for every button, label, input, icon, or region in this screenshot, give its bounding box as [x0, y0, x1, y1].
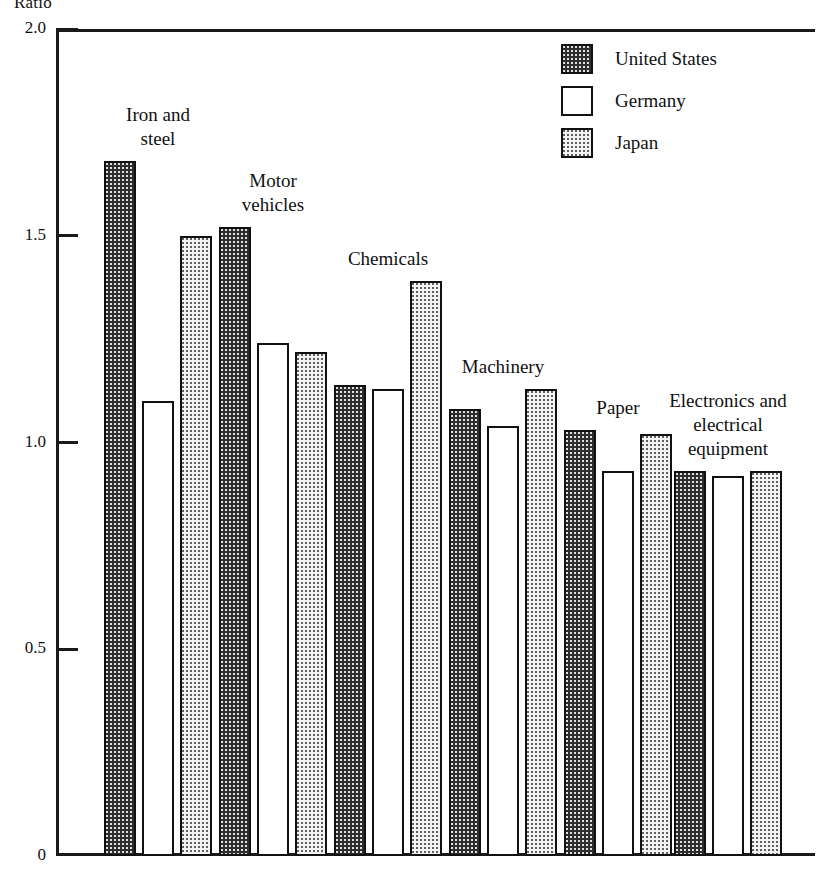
y-axis-tick-label: 2.0: [25, 18, 46, 38]
legend-swatch-japan: [561, 128, 593, 158]
legend-label-japan: Japan: [615, 132, 658, 154]
bar-us[interactable]: [564, 430, 596, 856]
bar-de[interactable]: [372, 389, 404, 856]
bar-jp[interactable]: [750, 471, 782, 856]
legend-item-united-states[interactable]: United States: [561, 38, 811, 80]
bar-us[interactable]: [334, 385, 366, 856]
bar-jp[interactable]: [640, 434, 672, 856]
bar-de[interactable]: [487, 426, 519, 856]
legend-item-germany[interactable]: Germany: [561, 80, 811, 122]
legend-swatch-united-states: [561, 44, 593, 74]
bar-jp[interactable]: [180, 236, 212, 856]
y-axis-tick-label: 0: [38, 845, 47, 865]
y-axis-tick-label: 0.5: [25, 638, 46, 658]
chart-legend: United States Germany Japan: [561, 38, 811, 164]
y-axis-tick-label: 1.5: [25, 225, 46, 245]
bar-us[interactable]: [674, 471, 706, 856]
bar-de[interactable]: [602, 471, 634, 856]
bar-group: [449, 29, 557, 856]
legend-label-united-states: United States: [615, 48, 717, 70]
bar-de[interactable]: [142, 401, 174, 856]
bar-de[interactable]: [712, 476, 744, 856]
category-label: Chemicals: [284, 247, 492, 271]
bar-chart: Ratio 2.01.51.00.50 Iron and steelMotor …: [0, 0, 822, 883]
bar-us[interactable]: [219, 227, 251, 856]
bar-group: [219, 29, 327, 856]
legend-swatch-germany: [561, 86, 593, 116]
bar-jp[interactable]: [295, 352, 327, 856]
bar-jp[interactable]: [410, 281, 442, 856]
bar-group: [104, 29, 212, 856]
y-axis-title: Ratio: [14, 0, 52, 13]
legend-label-germany: Germany: [615, 90, 686, 112]
bar-us[interactable]: [449, 409, 481, 856]
bar-us[interactable]: [104, 161, 136, 856]
bar-jp[interactable]: [525, 389, 557, 856]
legend-item-japan[interactable]: Japan: [561, 122, 811, 164]
category-label: Motor vehicles: [169, 169, 377, 217]
category-label: Iron and steel: [54, 103, 262, 151]
y-axis-tick-label: 1.0: [25, 432, 46, 452]
bar-group: [334, 29, 442, 856]
bar-de[interactable]: [257, 343, 289, 856]
